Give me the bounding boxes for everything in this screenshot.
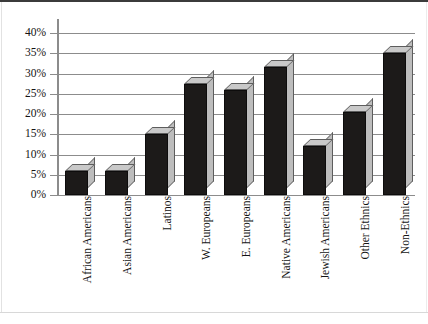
- bar-front-face: [264, 67, 287, 195]
- bar-front-face: [65, 171, 88, 195]
- bar-side-face: [128, 157, 135, 188]
- x-axis-tick-label: Native Americans: [281, 196, 293, 279]
- gridline: [58, 74, 415, 75]
- bar-side-face: [207, 70, 214, 188]
- bar-side-face: [88, 157, 95, 188]
- bar: [264, 60, 287, 195]
- bar-front-face: [145, 134, 168, 195]
- x-axis-tick-label: W. Europeans: [201, 196, 213, 260]
- bar: [145, 127, 168, 195]
- gridline: [58, 33, 415, 34]
- bar: [343, 105, 366, 195]
- bar: [65, 164, 88, 195]
- y-axis-tick-label: 10%: [4, 149, 46, 161]
- bar: [224, 83, 247, 195]
- bar-front-face: [224, 90, 247, 195]
- y-axis-tick-label: 25%: [4, 88, 46, 100]
- gridline: [58, 53, 415, 54]
- bar: [383, 46, 406, 195]
- chart-screenshot: 0%5%10%15%20%25%30%35%40% African Americ…: [0, 0, 428, 324]
- bar-front-face: [343, 112, 366, 195]
- bar-front-face: [105, 171, 128, 195]
- bar-front-face: [303, 146, 326, 195]
- bar-side-face: [366, 98, 373, 188]
- y-axis-tick-label: 15%: [4, 128, 46, 140]
- bar: [184, 77, 207, 195]
- x-axis-tick-label: Other Ethnics: [360, 196, 372, 260]
- x-axis-tick-label: Latinos: [162, 196, 174, 231]
- y-axis-tick-label: 30%: [4, 68, 46, 80]
- x-axis-tick-label: Jewish Americans: [320, 196, 332, 279]
- x-axis-tick-label: Asian Americans: [122, 196, 134, 275]
- y-axis-tick-label: 35%: [4, 47, 46, 59]
- bar: [303, 139, 326, 195]
- bar-front-face: [383, 53, 406, 195]
- y-axis-tick-label: 40%: [4, 27, 46, 39]
- plot-area: [58, 33, 415, 195]
- x-axis-tick-label: E. Europeans: [241, 196, 253, 257]
- y-axis-tick-label: 20%: [4, 108, 46, 120]
- x-axis-tick-label: African Americans: [82, 196, 94, 283]
- bar-front-face: [184, 84, 207, 195]
- x-axis-tick-labels: African AmericansAsian AmericansLatinosW…: [0, 196, 428, 324]
- bar-side-face: [287, 53, 294, 188]
- x-axis-tick-label: Non-Ethnics: [400, 196, 412, 254]
- page-top-border: [0, 0, 428, 2]
- bar-side-face: [406, 39, 413, 188]
- bar: [105, 164, 128, 195]
- y-axis-tick-label: 5%: [4, 169, 46, 181]
- bar-side-face: [247, 76, 254, 188]
